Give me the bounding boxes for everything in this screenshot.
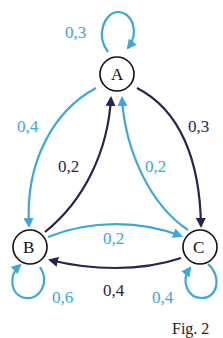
- label-C-C: 0,4: [152, 289, 173, 306]
- edge-C-B: [50, 258, 181, 268]
- figure-caption: Fig. 2: [172, 320, 209, 338]
- label-A-B: 0,4: [17, 118, 38, 135]
- label-A-C: 0,3: [188, 118, 209, 135]
- label-B-A: 0,2: [58, 158, 79, 175]
- edge-A-A: [102, 12, 134, 52]
- label-B-B: 0,6: [52, 289, 73, 306]
- edge-B-B: [12, 265, 44, 298]
- node-A-label: A: [111, 66, 123, 83]
- node-B-label: B: [23, 239, 34, 256]
- label-A-A: 0,3: [65, 24, 86, 41]
- label-C-B: 0,4: [103, 282, 124, 299]
- node-C-label: C: [193, 239, 204, 256]
- label-B-C: 0,2: [103, 230, 124, 247]
- edge-C-C: [186, 264, 217, 298]
- label-C-A: 0,2: [145, 158, 166, 175]
